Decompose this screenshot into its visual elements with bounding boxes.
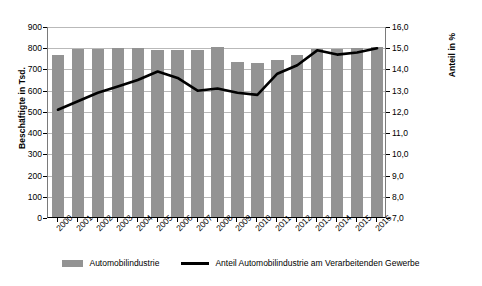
line-path (58, 48, 377, 110)
y-axis-left-tick-label: 100 (8, 193, 42, 201)
y-axis-right-title: Anteil in % (447, 7, 457, 103)
bar-swatch-icon (62, 260, 83, 267)
y-axis-left-tick-label: 400 (8, 129, 42, 137)
y-axis-left-tick-label: 300 (8, 150, 42, 158)
y-axis-right-tick-label: 10,0 (392, 150, 426, 158)
y-axis-right-tick-label: 8,0 (392, 193, 426, 201)
y-axis-right-tick-label: 15,0 (392, 44, 426, 52)
legend-label-automobilindustrie: Automobilindustrie (89, 258, 159, 268)
legend-label-anteil: Anteil Automobilindustrie am Verarbeiten… (215, 258, 419, 268)
legend-item-anteil: Anteil Automobilindustrie am Verarbeiten… (181, 258, 419, 268)
y-axis-left-tick-label: 200 (8, 172, 42, 180)
y-axis-right-tick-label: 9,0 (392, 172, 426, 180)
y-axis-right-tick-label: 16,0 (392, 23, 426, 31)
y-axis-left-tick-label: 900 (8, 23, 42, 31)
y-axis-left-tick-label: 700 (8, 65, 42, 73)
chart-figure: Beschäftigte in Tsd. Anteil in % 0100200… (0, 0, 482, 286)
y-axis-right-tick-label: 11,0 (392, 129, 426, 137)
line-swatch-icon (181, 262, 209, 265)
y-axis-left-tick (43, 218, 47, 219)
y-axis-left-tick-label: 500 (8, 108, 42, 116)
chart-legend: Automobilindustrie Anteil Automobilindus… (0, 258, 482, 268)
y-axis-right-tick-label: 7,0 (392, 214, 426, 222)
plot-area (47, 27, 386, 218)
y-axis-left-tick-label: 600 (8, 87, 42, 95)
legend-item-automobilindustrie: Automobilindustrie (62, 258, 159, 268)
line-series-anteil (48, 27, 387, 218)
y-axis-left-tick-label: 0 (8, 214, 42, 222)
y-axis-left-tick-label: 800 (8, 44, 42, 52)
y-axis-right-tick-label: 13,0 (392, 87, 426, 95)
y-axis-right-tick-label: 14,0 (392, 65, 426, 73)
y-axis-right-tick-label: 12,0 (392, 108, 426, 116)
